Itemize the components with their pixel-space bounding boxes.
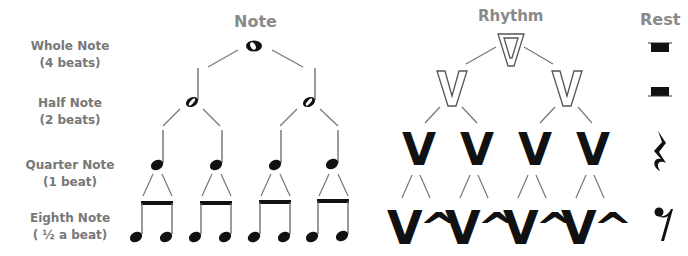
rhythm-eighth-long-4: V bbox=[561, 205, 597, 251]
rhythm-eighth-short-4: ^ bbox=[593, 208, 633, 248]
note-tree-lines bbox=[143, 47, 604, 198]
rhythm-quarter-1: V bbox=[402, 128, 436, 172]
rhythm-whole-icon bbox=[498, 34, 524, 66]
rhythm-eighth-long-2: V bbox=[445, 205, 481, 251]
half-note-icon bbox=[184, 68, 200, 109]
eighth-rest-icon bbox=[655, 208, 674, 242]
rhythm-quarter-2: V bbox=[460, 128, 494, 172]
eighth-note-pairs bbox=[128, 199, 350, 244]
rhythm-half-icon bbox=[437, 71, 467, 106]
rhythm-eighth-long-3: V bbox=[503, 205, 539, 251]
rhythm-quarter-4: V bbox=[576, 128, 610, 172]
rhythm-quarter-3: V bbox=[518, 128, 552, 172]
whole-note-icon bbox=[246, 41, 262, 52]
half-note-icon bbox=[301, 68, 317, 109]
half-rest-icon bbox=[648, 87, 672, 96]
rhythm-eighth-long-1: V bbox=[387, 205, 423, 251]
whole-rest-icon bbox=[648, 43, 672, 52]
quarter-rest-icon bbox=[654, 131, 666, 171]
rhythm-half-icon bbox=[552, 71, 582, 106]
quarter-notes bbox=[149, 130, 340, 172]
